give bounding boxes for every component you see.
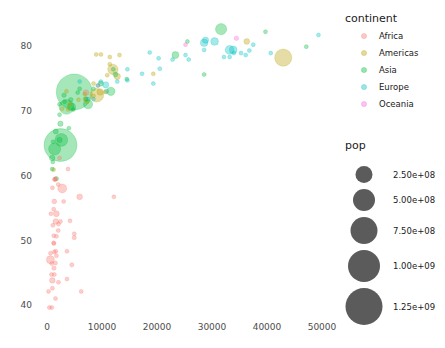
- data-point-bubble[interactable]: [247, 49, 251, 53]
- data-point-bubble[interactable]: [50, 186, 54, 190]
- data-point-bubble[interactable]: [113, 72, 118, 77]
- data-point-bubble[interactable]: [66, 107, 70, 111]
- data-point-bubble[interactable]: [92, 87, 96, 91]
- pop-legend-swatch[interactable]: [348, 250, 380, 282]
- data-point-bubble[interactable]: [158, 67, 162, 71]
- data-point-bubble[interactable]: [65, 277, 69, 281]
- data-point-bubble[interactable]: [79, 289, 83, 293]
- data-point-bubble[interactable]: [66, 167, 70, 171]
- data-point-bubble[interactable]: [94, 52, 98, 56]
- continent-legend-swatch[interactable]: [361, 33, 366, 38]
- data-point-bubble[interactable]: [68, 219, 72, 223]
- data-point-bubble[interactable]: [49, 251, 53, 255]
- data-point-bubble[interactable]: [71, 107, 75, 111]
- data-point-bubble[interactable]: [62, 93, 66, 97]
- data-point-bubble[interactable]: [108, 55, 112, 59]
- data-point-bubble[interactable]: [65, 249, 69, 253]
- pop-legend-swatch[interactable]: [346, 288, 383, 325]
- data-point-bubble[interactable]: [105, 73, 109, 77]
- data-point-bubble[interactable]: [67, 126, 71, 130]
- data-point-bubble[interactable]: [216, 24, 227, 35]
- data-point-bubble[interactable]: [58, 121, 63, 126]
- data-point-bubble[interactable]: [86, 97, 90, 101]
- data-point-bubble[interactable]: [269, 51, 273, 55]
- data-point-bubble[interactable]: [72, 232, 76, 236]
- data-point-bubble[interactable]: [151, 82, 155, 86]
- data-point-bubble[interactable]: [211, 38, 219, 46]
- data-point-bubble[interactable]: [52, 266, 56, 270]
- data-point-bubble[interactable]: [52, 199, 57, 204]
- data-point-bubble[interactable]: [54, 177, 58, 181]
- data-point-bubble[interactable]: [76, 91, 80, 95]
- pop-legend-swatch[interactable]: [353, 189, 375, 211]
- data-point-bubble[interactable]: [68, 102, 72, 106]
- data-point-bubble[interactable]: [53, 297, 57, 301]
- data-point-bubble[interactable]: [99, 52, 103, 56]
- pop-legend-swatch[interactable]: [351, 217, 378, 244]
- data-point-bubble[interactable]: [228, 55, 232, 59]
- data-point-bubble[interactable]: [58, 219, 62, 223]
- data-point-bubble[interactable]: [54, 254, 58, 258]
- data-point-bubble[interactable]: [78, 80, 82, 84]
- data-point-bubble[interactable]: [83, 92, 87, 96]
- data-point-bubble[interactable]: [78, 87, 82, 91]
- data-point-bubble[interactable]: [97, 89, 104, 96]
- data-point-bubble[interactable]: [244, 53, 248, 57]
- data-point-bubble[interactable]: [92, 97, 96, 101]
- data-point-bubble[interactable]: [202, 37, 208, 43]
- data-point-bubble[interactable]: [52, 241, 56, 245]
- data-point-bubble[interactable]: [62, 199, 66, 203]
- data-point-bubble[interactable]: [125, 67, 129, 71]
- data-point-bubble[interactable]: [50, 278, 56, 284]
- pop-legend-swatch[interactable]: [356, 166, 373, 183]
- continent-legend-swatch[interactable]: [361, 50, 366, 55]
- data-point-bubble[interactable]: [117, 53, 121, 57]
- data-point-bubble[interactable]: [53, 129, 58, 134]
- data-point-bubble[interactable]: [53, 261, 57, 265]
- continent-legend-swatch[interactable]: [361, 84, 366, 89]
- data-point-bubble[interactable]: [63, 100, 67, 104]
- data-point-bubble[interactable]: [263, 30, 267, 34]
- data-point-bubble[interactable]: [70, 263, 74, 267]
- data-point-bubble[interactable]: [50, 286, 54, 290]
- data-point-bubble[interactable]: [111, 67, 115, 71]
- data-point-bubble[interactable]: [103, 82, 109, 88]
- data-point-bubble[interactable]: [234, 36, 238, 40]
- data-point-bubble[interactable]: [68, 97, 73, 102]
- data-point-bubble[interactable]: [77, 98, 81, 102]
- data-point-bubble[interactable]: [275, 49, 292, 66]
- data-point-bubble[interactable]: [51, 223, 55, 227]
- data-point-bubble[interactable]: [72, 236, 76, 240]
- data-point-bubble[interactable]: [53, 211, 59, 217]
- data-point-bubble[interactable]: [140, 72, 144, 76]
- data-point-bubble[interactable]: [148, 50, 152, 54]
- data-point-bubble[interactable]: [108, 62, 112, 66]
- data-point-bubble[interactable]: [58, 113, 62, 117]
- data-point-bubble[interactable]: [222, 55, 226, 59]
- data-point-bubble[interactable]: [47, 289, 51, 293]
- data-point-bubble[interactable]: [239, 51, 243, 55]
- data-point-bubble[interactable]: [202, 48, 206, 52]
- data-point-bubble[interactable]: [49, 143, 61, 155]
- data-point-bubble[interactable]: [58, 156, 62, 160]
- data-point-bubble[interactable]: [50, 167, 54, 171]
- data-point-bubble[interactable]: [57, 137, 62, 142]
- data-point-bubble[interactable]: [54, 234, 58, 238]
- data-point-bubble[interactable]: [65, 89, 69, 93]
- data-point-bubble[interactable]: [99, 80, 103, 84]
- data-point-bubble[interactable]: [187, 58, 191, 62]
- data-point-bubble[interactable]: [92, 82, 96, 86]
- data-point-bubble[interactable]: [103, 90, 107, 94]
- data-point-bubble[interactable]: [50, 262, 54, 266]
- data-point-bubble[interactable]: [232, 51, 236, 55]
- data-point-bubble[interactable]: [77, 194, 83, 200]
- data-point-bubble[interactable]: [96, 84, 100, 88]
- data-point-bubble[interactable]: [304, 45, 308, 49]
- data-point-bubble[interactable]: [244, 39, 250, 45]
- data-point-bubble[interactable]: [56, 183, 60, 187]
- data-point-bubble[interactable]: [60, 107, 64, 111]
- data-point-bubble[interactable]: [47, 306, 51, 310]
- data-point-bubble[interactable]: [184, 53, 188, 57]
- data-point-bubble[interactable]: [251, 43, 255, 47]
- data-point-bubble[interactable]: [49, 212, 53, 216]
